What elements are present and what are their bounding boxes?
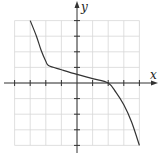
function-graph: y x (0, 0, 159, 154)
x-axis-label: x (150, 68, 157, 82)
y-axis-label: y (80, 0, 88, 14)
